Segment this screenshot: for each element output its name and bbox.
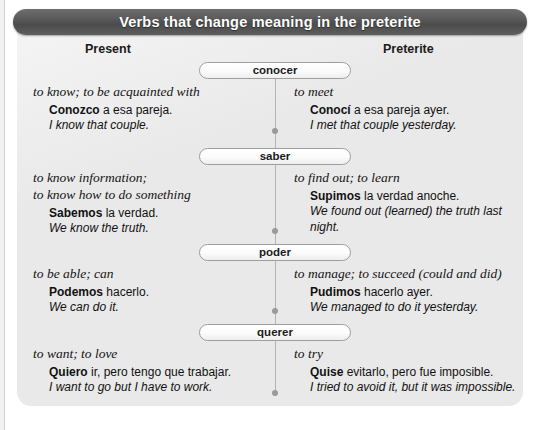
- gloss-text: to find out; to learn: [288, 170, 526, 187]
- gloss-text: to know; to be acquainted with: [33, 84, 265, 101]
- gloss-text: to manage; to succeed (could and did): [288, 266, 526, 283]
- example-translation: I want to go but I have to work.: [33, 380, 265, 396]
- example-remainder: evitarlo, pero fue imposible.: [343, 365, 493, 379]
- verb-pill-querer[interactable]: querer: [199, 324, 351, 341]
- gloss-text: to meet: [288, 84, 526, 101]
- example-sentence: Quise evitarlo, pero fue imposible.: [288, 365, 526, 381]
- gloss-text: to know information; to know how to do s…: [33, 170, 265, 204]
- verb-pill-saber[interactable]: saber: [199, 148, 351, 165]
- column-header-preterite: Preterite: [383, 42, 434, 56]
- row-querer-present: to want; to love Quiero ir, pero tengo q…: [33, 346, 265, 396]
- example-verb-form: Sabemos: [49, 206, 102, 220]
- row-conocer-preterite: to meet Conocí a esa pareja ayer. I met …: [288, 84, 526, 134]
- example-sentence: Sabemos la verdad.: [33, 206, 265, 222]
- verb-pill-label: saber: [260, 151, 291, 163]
- example-sentence: Quiero ir, pero tengo que trabajar.: [33, 365, 265, 381]
- example-verb-form: Conozco: [49, 103, 100, 117]
- row-conocer-present: to know; to be acquainted with Conozco a…: [33, 84, 265, 134]
- row-querer-preterite: to try Quise evitarlo, pero fue imposibl…: [288, 346, 526, 396]
- spine-dot-querer: [272, 390, 278, 396]
- example-remainder: ir, pero tengo que trabajar.: [88, 365, 231, 379]
- row-saber-present: to know information; to know how to do s…: [33, 170, 265, 237]
- example-remainder: a esa pareja.: [100, 103, 173, 117]
- example-remainder: hacerlo.: [103, 285, 149, 299]
- example-verb-form: Pudimos: [310, 285, 361, 299]
- example-verb-form: Supimos: [310, 189, 361, 203]
- gloss-text: to want; to love: [33, 346, 265, 363]
- verb-pill-poder[interactable]: poder: [199, 244, 351, 261]
- textbook-figure: Verbs that change meaning in the preteri…: [0, 0, 540, 430]
- example-verb-form: Quiero: [49, 365, 88, 379]
- example-translation: I met that couple yesterday.: [288, 118, 526, 134]
- example-sentence: Podemos hacerlo.: [33, 285, 265, 301]
- figure-title: Verbs that change meaning in the preteri…: [119, 15, 421, 30]
- figure-title-bar: Verbs that change meaning in the preteri…: [13, 9, 527, 35]
- example-verb-form: Conocí: [310, 103, 351, 117]
- gloss-text: to try: [288, 346, 526, 363]
- column-header-present: Present: [85, 42, 131, 56]
- example-remainder: hacerlo ayer.: [361, 285, 433, 299]
- example-translation: We managed to do it yesterday.: [288, 300, 526, 316]
- example-sentence: Conozco a esa pareja.: [33, 103, 265, 119]
- verb-pill-label: poder: [259, 247, 291, 259]
- row-saber-preterite: to find out; to learn Supimos la verdad …: [288, 170, 526, 236]
- center-spine-line: [275, 76, 276, 396]
- verb-pill-conocer[interactable]: conocer: [199, 62, 351, 79]
- example-translation: I tried to avoid it, but it was impossib…: [288, 380, 526, 396]
- row-poder-present: to be able; can Podemos hacerlo. We can …: [33, 266, 265, 316]
- example-remainder: la verdad anoche.: [361, 189, 460, 203]
- spine-dot-poder: [272, 308, 278, 314]
- example-sentence: Conocí a esa pareja ayer.: [288, 103, 526, 119]
- spine-dot-saber: [272, 228, 278, 234]
- verb-pill-label: conocer: [253, 65, 298, 77]
- example-remainder: la verdad.: [102, 206, 158, 220]
- page-binding-line: [4, 0, 5, 430]
- example-verb-form: Podemos: [49, 285, 103, 299]
- example-translation: We know the truth.: [33, 221, 265, 237]
- example-verb-form: Quise: [310, 365, 343, 379]
- verb-pill-label: querer: [257, 327, 293, 339]
- example-sentence: Supimos la verdad anoche.: [288, 189, 526, 205]
- gloss-text: to be able; can: [33, 266, 265, 283]
- example-translation: We can do it.: [33, 300, 265, 316]
- example-translation: We found out (learned) the truth last ni…: [288, 204, 506, 235]
- example-remainder: a esa pareja ayer.: [351, 103, 450, 117]
- row-poder-preterite: to manage; to succeed (could and did) Pu…: [288, 266, 526, 316]
- example-translation: I know that couple.: [33, 118, 265, 134]
- example-sentence: Pudimos hacerlo ayer.: [288, 285, 526, 301]
- spine-dot-conocer: [272, 128, 278, 134]
